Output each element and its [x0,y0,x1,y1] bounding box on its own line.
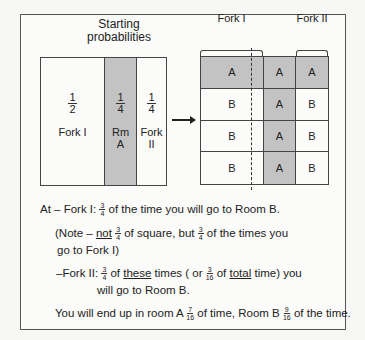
fork2-explanation-line-1: –Fork II: 34 of these times ( or 316 of … [56,266,302,281]
fork1-explanation: At – Fork I: 34 of the time you will go … [40,202,280,217]
note-line-2: go to Fork I) [57,243,119,257]
fork1-dashed-divider [251,48,252,190]
outcome-grid: A A A B A B B A B B A B [200,56,329,185]
grid-cell: A [201,57,264,89]
grid-cell: A [264,121,296,153]
grid-cell: A [264,57,296,89]
fork2-column: 14 ForkII [137,58,166,185]
column-label: RmA [105,126,136,150]
starting-probabilities-box: 12 Fork I 14 RmA 14 ForkII [40,57,167,186]
column-label: ForkII [137,126,166,150]
grid-cell: B [296,89,328,121]
fork2-explanation-line-2: will go to Room B. [97,283,190,297]
fraction: 12 [68,92,76,115]
fork1-header: Fork I [200,12,263,24]
grid-cell: B [201,121,264,153]
grid-cell: A [264,152,296,184]
grid-cell: B [201,152,264,184]
grid-cell: B [201,89,264,121]
title-line-2: probabilities [60,31,178,44]
grid-cell: A [264,89,296,121]
arrow-right-icon [190,116,196,124]
grid-cell: A [296,57,328,89]
note-line-1: (Note – not 34 of square, but 34 of the … [55,226,288,241]
conclusion: You will end up in room A 716 of time, R… [55,306,351,321]
arrow-line [172,119,192,121]
fraction: 14 [147,92,155,115]
fork2-header: Fork II [295,12,329,24]
grid-cell: B [296,121,328,153]
grid-cell: B [296,152,328,184]
starting-probabilities-title: Starting probabilities [60,18,178,44]
fraction: 14 [116,92,124,115]
fork1-column: 12 Fork I [41,58,104,185]
column-label: Fork I [41,126,104,138]
room-a-column: 14 RmA [104,58,137,185]
